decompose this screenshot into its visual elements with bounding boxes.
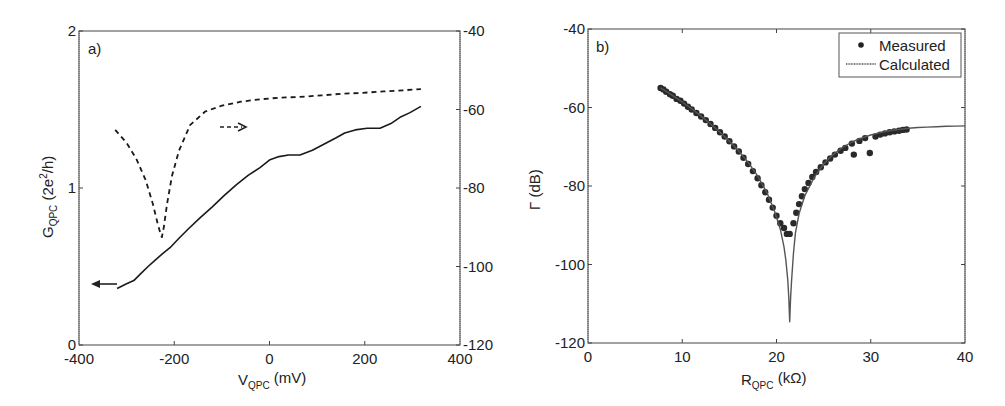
panel-a-left-y-tick-label: 1: [68, 179, 76, 196]
panel-a-x-label: VQPC (mV): [238, 369, 306, 391]
measured-point: [867, 150, 873, 156]
panel-a-series: [115, 89, 421, 288]
panel-a-right-y-ticks: -40-60-80-100-120: [456, 22, 493, 353]
panel-a-x-tick-label: -200: [159, 350, 189, 367]
right-axis-arrow: [220, 123, 246, 131]
panel-b-y-tick-label: -80: [563, 177, 585, 194]
panel-b-label: b): [596, 38, 609, 55]
panel-b-x-tick-label: 0: [584, 348, 592, 365]
legend-calculated-label: Calculated: [879, 56, 950, 73]
panel-a-right-y-tick-label: -60: [463, 101, 485, 118]
panel-a-right-y-tick-label: -40: [463, 22, 485, 39]
panel-a: -400-2000200400 012 -40-60-80-100-120 a)…: [38, 22, 493, 391]
panel-a-right-y-tick-label: -80: [463, 179, 485, 196]
panel-b-x-label: RQPC (kΩ): [741, 369, 806, 391]
panel-a-right-y-tick-label: -120: [463, 336, 493, 353]
measured-point: [787, 231, 793, 237]
panel-b-x-tick-label: 20: [768, 348, 785, 365]
panel-b-x-ticks: 010203040: [584, 29, 974, 365]
measured-point: [790, 220, 796, 226]
left-axis-arrow: [91, 280, 117, 288]
legend-measured-marker: [858, 42, 864, 48]
panel-a-x-tick-label: 200: [352, 350, 377, 367]
panel-a-y-label: GQPC (2e2/h): [38, 156, 59, 238]
panel-a-right-y-tick-label: -100: [463, 258, 493, 275]
panel-b-x-tick-label: 10: [674, 348, 691, 365]
legend: Measured Calculated: [839, 33, 961, 77]
panel-b-y-tick-label: -100: [555, 256, 585, 273]
panel-a-label: a): [88, 40, 101, 57]
panel-a-left-y-tick-label: 0: [68, 336, 76, 353]
panel-a-conductance-line: [117, 106, 421, 288]
panel-a-left-y-tick-label: 2: [68, 22, 76, 39]
panel-b-y-label: Γ (dB): [526, 169, 543, 210]
panel-a-x-tick-label: 0: [265, 350, 273, 367]
panel-a-frame: [79, 31, 460, 345]
panel-b-y-tick-label: -120: [555, 334, 585, 351]
measured-point: [851, 151, 857, 157]
panel-b-y-tick-label: -60: [563, 99, 585, 116]
panel-a-reflection-line: [115, 89, 421, 237]
figure: -400-2000200400 012 -40-60-80-100-120 a)…: [0, 0, 1005, 406]
measured-point: [781, 225, 787, 231]
panel-b: 010203040 -40-60-80-100-120 b) Measured …: [526, 20, 973, 391]
panel-a-left-y-ticks: 012: [68, 22, 83, 353]
legend-measured-label: Measured: [879, 37, 946, 54]
panel-b-x-tick-label: 40: [957, 348, 974, 365]
panel-b-series: [657, 85, 965, 322]
panel-b-x-tick-label: 30: [862, 348, 879, 365]
panel-b-y-tick-label: -40: [563, 20, 585, 37]
